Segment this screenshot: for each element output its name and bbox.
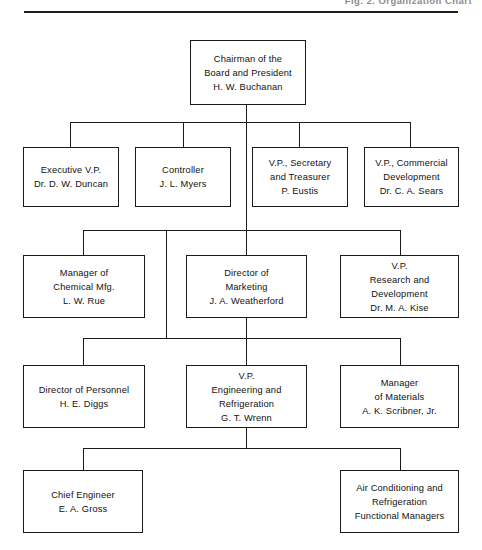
node-chairman-line-1: Chairman of the bbox=[214, 52, 282, 66]
connector-drop-ac-refrigeration bbox=[400, 448, 401, 471]
node-vp-secretary-treasurer-line-1: V.P., Secretary bbox=[269, 156, 332, 170]
node-manager-chemical-mfg[interactable]: Manager of Chemical Mfg. L. W. Rue bbox=[23, 255, 145, 318]
node-controller[interactable]: Controller J. L. Myers bbox=[135, 147, 231, 207]
node-ac-refrigeration-managers-line-2: Refrigeration bbox=[372, 495, 427, 509]
connector-bus-level3 bbox=[83, 230, 401, 231]
node-vp-commercial-development-line-2: Development bbox=[383, 170, 439, 184]
node-chief-engineer[interactable]: Chief Engineer E. A. Gross bbox=[23, 470, 143, 533]
node-vp-secretary-treasurer-line-3: P. Eustis bbox=[282, 184, 319, 198]
node-manager-materials-line-2: of Materials bbox=[375, 390, 425, 404]
connector-bus-level4 bbox=[83, 338, 401, 339]
connector-trunk-l2-l3 bbox=[246, 122, 247, 231]
node-chief-engineer-line-1: Chief Engineer bbox=[51, 488, 115, 502]
node-chairman-line-3: H. W. Buchanan bbox=[213, 80, 282, 94]
connector-drop-vp-research bbox=[400, 230, 401, 255]
connector-drop-manager-materials bbox=[400, 338, 401, 365]
page-title: Fig. 2. Organization Chart bbox=[0, 0, 472, 6]
node-chairman-line-2: Board and President bbox=[204, 66, 292, 80]
node-vp-commercial-development[interactable]: V.P., Commercial Development Dr. C. A. S… bbox=[364, 147, 459, 207]
node-manager-chemical-mfg-line-2: Chemical Mfg. bbox=[53, 280, 114, 294]
node-vp-engineering-refrigeration-line-4: G. T. Wrenn bbox=[221, 411, 272, 425]
node-director-marketing-line-1: Director of bbox=[224, 266, 269, 280]
node-exec-vp-line-1: Executive V.P. bbox=[41, 163, 102, 177]
connector-drop-director-personnel bbox=[83, 338, 84, 365]
org-chart-page: Fig. 2. Organization Chart Chairman of t… bbox=[0, 0, 482, 550]
node-chairman[interactable]: Chairman of the Board and President H. W… bbox=[190, 40, 306, 105]
node-manager-materials-line-3: A. K. Scribner, Jr. bbox=[362, 404, 437, 418]
node-vp-research-development-line-2: Research and bbox=[370, 273, 430, 287]
connector-drop-vp-engineering bbox=[246, 338, 247, 365]
connector-bus-level5 bbox=[83, 448, 401, 449]
connector-trunk-l3-l4 bbox=[246, 318, 247, 339]
node-controller-line-2: J. L. Myers bbox=[159, 177, 206, 191]
connector-drop-chief-engineer bbox=[83, 448, 84, 471]
node-exec-vp-line-2: Dr. D. W. Duncan bbox=[34, 177, 108, 191]
connector-bus-level2 bbox=[70, 122, 411, 123]
node-director-marketing-line-2: Marketing bbox=[225, 280, 267, 294]
node-manager-materials-line-1: Manager bbox=[381, 376, 419, 390]
connector-drop-manager-chemical bbox=[83, 230, 84, 255]
node-director-marketing-line-3: J. A. Weatherford bbox=[209, 294, 283, 308]
node-vp-research-development-line-1: V.P. bbox=[391, 259, 407, 273]
header-rule bbox=[24, 11, 458, 13]
node-vp-engineering-refrigeration-line-1: V.P. bbox=[238, 369, 254, 383]
connector-trunk-l1-l2 bbox=[246, 105, 247, 123]
node-vp-secretary-treasurer-line-2: and Treasurer bbox=[270, 170, 330, 184]
connector-drop-controller bbox=[183, 122, 184, 147]
connector-drop-vp-commercial bbox=[410, 122, 411, 147]
node-manager-chemical-mfg-line-1: Manager of bbox=[60, 266, 109, 280]
node-ac-refrigeration-managers-line-3: Functional Managers bbox=[355, 509, 445, 523]
node-vp-commercial-development-line-1: V.P., Commercial bbox=[375, 156, 448, 170]
node-director-marketing[interactable]: Director of Marketing J. A. Weatherford bbox=[186, 255, 307, 318]
node-director-personnel-line-2: H. E. Diggs bbox=[60, 397, 109, 411]
node-ac-refrigeration-managers-line-1: Air Conditioning and bbox=[356, 481, 443, 495]
connector-drop-director-marketing bbox=[246, 230, 247, 255]
connector-drop-exec-vp bbox=[70, 122, 71, 147]
node-manager-chemical-mfg-line-3: L. W. Rue bbox=[63, 294, 105, 308]
node-vp-engineering-refrigeration[interactable]: V.P. Engineering and Refrigeration G. T.… bbox=[186, 365, 307, 428]
connector-drop-vp-secretary bbox=[299, 122, 300, 147]
node-vp-research-development-line-3: Development bbox=[371, 287, 427, 301]
connector-trunk-l4-l5 bbox=[246, 428, 247, 449]
node-vp-research-development[interactable]: V.P. Research and Development Dr. M. A. … bbox=[340, 255, 459, 318]
node-exec-vp[interactable]: Executive V.P. Dr. D. W. Duncan bbox=[23, 147, 119, 207]
node-director-personnel[interactable]: Director of Personnel H. E. Diggs bbox=[23, 365, 145, 428]
node-chief-engineer-line-2: E. A. Gross bbox=[59, 502, 108, 516]
node-vp-research-development-line-4: Dr. M. A. Kise bbox=[370, 301, 428, 315]
node-vp-secretary-treasurer[interactable]: V.P., Secretary and Treasurer P. Eustis bbox=[252, 147, 348, 207]
node-ac-refrigeration-managers[interactable]: Air Conditioning and Refrigeration Funct… bbox=[340, 470, 459, 533]
connector-trunk-l3-bypass bbox=[166, 230, 167, 339]
node-vp-engineering-refrigeration-line-2: Engineering and bbox=[212, 383, 282, 397]
node-controller-line-1: Controller bbox=[162, 163, 204, 177]
node-manager-materials[interactable]: Manager of Materials A. K. Scribner, Jr. bbox=[340, 365, 459, 428]
node-vp-engineering-refrigeration-line-3: Refrigeration bbox=[219, 397, 274, 411]
node-director-personnel-line-1: Director of Personnel bbox=[39, 383, 129, 397]
node-vp-commercial-development-line-3: Dr. C. A. Sears bbox=[380, 184, 444, 198]
